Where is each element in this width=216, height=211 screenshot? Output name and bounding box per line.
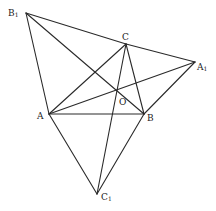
segment-b1-c <box>26 13 126 44</box>
segment-a-c1 <box>49 114 97 194</box>
triangle-diagram <box>0 0 216 211</box>
segment-c-a1 <box>126 44 195 62</box>
segment-b-c <box>126 44 144 114</box>
segment-b-a1 <box>144 62 195 114</box>
segment-b1-a <box>26 13 49 114</box>
label-c1: C1 <box>101 193 112 202</box>
label-b: B <box>147 114 154 123</box>
label-b1: B1 <box>8 9 18 18</box>
label-a: A <box>37 112 44 121</box>
label-c: C <box>122 33 129 42</box>
segment-b-c1 <box>97 114 144 194</box>
label-o: O <box>119 98 126 107</box>
geometry-figure: B1 C A1 A B O C1 <box>0 0 216 211</box>
label-a1: A1 <box>197 63 207 72</box>
